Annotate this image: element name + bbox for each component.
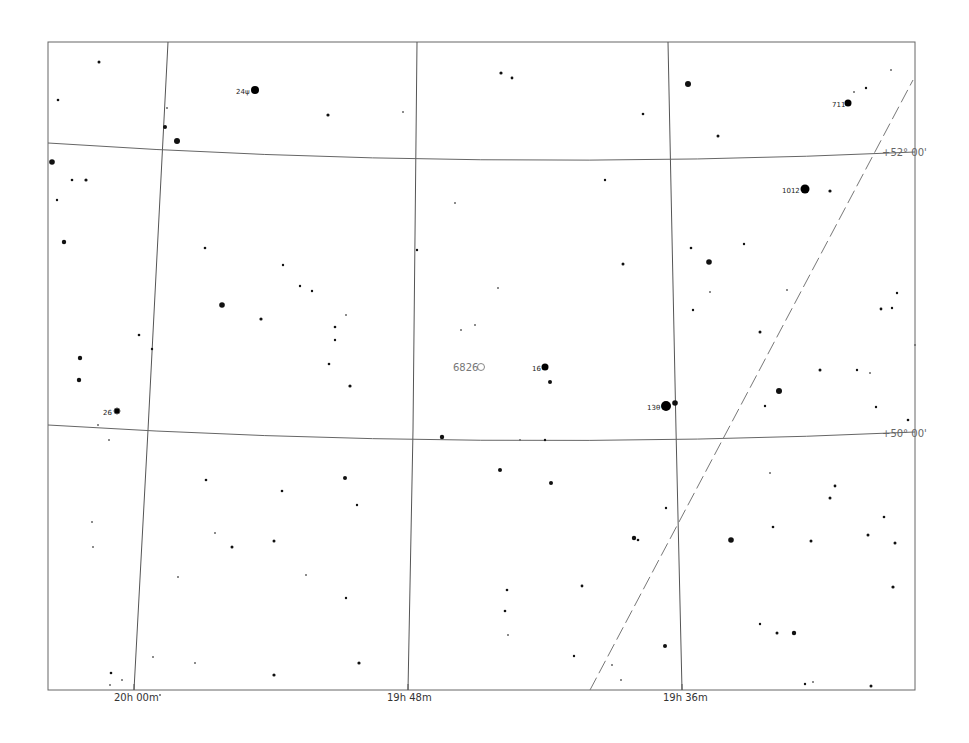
star — [891, 585, 894, 588]
star — [356, 504, 358, 506]
star — [91, 521, 93, 523]
star — [281, 490, 284, 493]
star — [883, 516, 886, 519]
star — [231, 546, 234, 549]
star — [743, 243, 745, 245]
star — [573, 655, 575, 657]
star — [440, 435, 444, 439]
star — [498, 468, 502, 472]
star — [728, 537, 734, 543]
star — [305, 574, 307, 576]
star — [804, 683, 806, 685]
star-13theta[interactable] — [661, 401, 671, 411]
star — [460, 329, 462, 331]
star — [759, 331, 762, 334]
star-711[interactable] — [845, 100, 852, 107]
star — [205, 479, 208, 482]
star — [622, 263, 625, 266]
star — [504, 610, 507, 613]
star-label-1012: 1012 — [782, 187, 800, 195]
star — [194, 662, 196, 664]
star — [343, 476, 347, 480]
star — [819, 369, 822, 372]
star — [299, 285, 301, 287]
star-label-16: 16 — [532, 365, 541, 373]
star — [717, 135, 720, 138]
star — [97, 424, 99, 426]
star — [776, 388, 782, 394]
star — [829, 497, 832, 500]
star — [867, 534, 870, 537]
star — [810, 540, 813, 543]
star — [497, 287, 499, 289]
star — [869, 372, 871, 374]
ra-label-1936: 19h 36m — [663, 692, 708, 703]
star — [853, 91, 855, 93]
star — [109, 684, 111, 686]
star — [914, 344, 916, 346]
star-label-711: 711 — [832, 101, 845, 109]
star — [896, 292, 898, 294]
star — [78, 356, 82, 360]
star — [62, 240, 66, 244]
star-26[interactable] — [114, 408, 120, 414]
star — [204, 247, 207, 250]
dec-label-52: +52° 00' — [882, 147, 927, 158]
star — [174, 138, 180, 144]
dec-label-50: +50° 00' — [882, 428, 927, 439]
star — [663, 644, 667, 648]
star — [890, 69, 892, 71]
star — [345, 597, 347, 599]
star — [151, 348, 153, 350]
star — [49, 159, 55, 165]
ra-label-2000: 20h 00m — [114, 692, 159, 703]
star — [894, 542, 897, 545]
star — [891, 307, 893, 309]
star-label-24psi: 24ψ — [236, 88, 250, 96]
star — [272, 673, 275, 676]
star — [907, 419, 910, 422]
star — [77, 378, 81, 382]
star-16[interactable] — [542, 364, 549, 371]
star — [92, 546, 94, 548]
star — [474, 324, 476, 326]
star — [880, 308, 883, 311]
star-chart: 24ψ 711 1012 16 13θ 26 6826 +52° 00' +50… — [0, 0, 969, 743]
star — [152, 656, 154, 658]
star — [632, 536, 636, 540]
star — [834, 485, 837, 488]
star — [499, 71, 502, 74]
star — [581, 585, 584, 588]
star — [177, 576, 179, 578]
star — [665, 507, 667, 509]
star — [110, 672, 113, 675]
star-24psi[interactable] — [251, 86, 259, 94]
star — [357, 661, 360, 664]
star — [454, 202, 456, 204]
star — [786, 289, 788, 291]
star — [282, 264, 284, 266]
star — [416, 249, 418, 251]
star-label-13theta: 13θ — [647, 404, 660, 412]
star-label-26: 26 — [103, 409, 112, 417]
star — [544, 439, 546, 441]
star — [507, 634, 509, 636]
star — [672, 400, 678, 406]
star — [519, 439, 521, 441]
star — [273, 540, 276, 543]
star — [769, 472, 771, 474]
dso-label-6826: 6826 — [453, 362, 478, 373]
star-1012[interactable] — [801, 185, 810, 194]
star — [611, 664, 613, 666]
star — [163, 125, 167, 129]
star — [348, 384, 351, 387]
star — [84, 178, 87, 181]
star — [56, 199, 58, 201]
star — [138, 334, 141, 337]
star — [759, 623, 761, 625]
star — [870, 685, 873, 688]
star — [402, 111, 404, 113]
star — [812, 681, 814, 683]
star — [57, 99, 60, 102]
star — [121, 679, 123, 681]
